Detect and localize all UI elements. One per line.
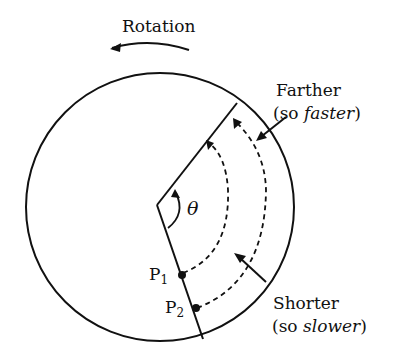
p1-letter: P: [149, 264, 160, 284]
p1-subscript: 1: [160, 273, 168, 287]
point-p1: [178, 271, 186, 279]
p2-path-arc: [197, 122, 266, 308]
point-p2: [192, 304, 200, 312]
rotation-arrow: [112, 43, 189, 50]
shorter-note-prefix: (so: [272, 316, 303, 336]
rotation-label: Rotation: [122, 16, 195, 36]
p2-letter: P: [165, 297, 176, 317]
farther-note-em: faster: [304, 103, 354, 123]
shorter-label: Shorter: [273, 293, 339, 313]
shorter-note: (so slower): [272, 316, 367, 336]
farther-note: (so faster): [273, 103, 361, 123]
farther-text: Farther: [276, 80, 341, 100]
p1-arc-arrowhead-icon: [206, 140, 214, 150]
theta-angle-arc: [168, 193, 180, 228]
p2-arc-arrowhead-icon: [233, 118, 242, 129]
theta-label: θ: [187, 198, 198, 218]
shorter-note-em: slower: [303, 316, 360, 336]
reference-radius: [157, 103, 237, 205]
rotation-arrowhead-icon: [110, 43, 121, 52]
shorter-note-suffix: ): [360, 316, 367, 336]
farther-note-prefix: (so: [273, 103, 304, 123]
rotating-disk-diagram: [0, 0, 403, 363]
p2-label: P2: [165, 297, 184, 323]
theta-arrowhead-icon: [171, 189, 180, 198]
shorter-pointer: [240, 258, 266, 282]
shorter-text: Shorter: [273, 293, 339, 313]
farther-label: Farther: [276, 80, 341, 100]
disk-outline: [26, 73, 294, 341]
farther-note-suffix: ): [354, 103, 361, 123]
p2-subscript: 2: [176, 306, 184, 320]
p1-label: P1: [149, 264, 168, 290]
